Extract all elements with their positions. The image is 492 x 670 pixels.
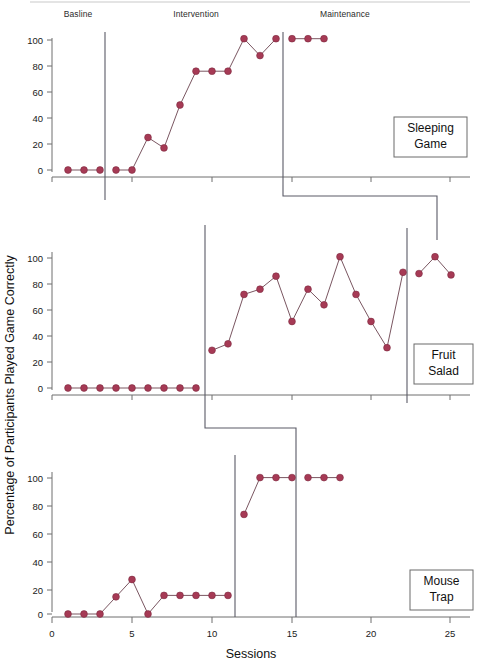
panel1-ytick-60: 60	[32, 87, 43, 98]
panel-label-line1: Sleeping	[407, 121, 454, 135]
data-point	[97, 385, 104, 392]
data-point	[193, 385, 200, 392]
data-point	[353, 291, 360, 298]
data-point	[209, 68, 216, 75]
data-point	[161, 145, 168, 152]
data-point	[432, 253, 439, 260]
panel2-ytick-60: 60	[32, 305, 43, 316]
panel-sleeping-game: 100 80 60 40 20 0	[27, 32, 470, 240]
data-point	[337, 253, 344, 260]
panel2-ytick-20: 20	[32, 357, 43, 368]
panel1-ytick-100: 100	[27, 35, 43, 46]
data-point	[129, 167, 136, 174]
panel3-xtick-5: 5	[129, 628, 134, 639]
data-point	[65, 167, 72, 174]
panel3-xtick-0: 0	[49, 628, 54, 639]
data-point	[289, 35, 296, 42]
data-point	[337, 474, 344, 481]
data-point	[368, 318, 375, 325]
panel3-xtick-25: 25	[445, 628, 456, 639]
data-point	[177, 102, 184, 109]
panel3-series	[65, 474, 344, 617]
data-point	[321, 301, 328, 308]
panel-label-line1: Fruit	[432, 348, 457, 362]
data-point	[145, 385, 152, 392]
panel3-ytick-80: 80	[32, 501, 43, 512]
data-point	[209, 347, 216, 354]
data-point	[241, 35, 248, 42]
data-point	[161, 385, 168, 392]
panel2-y-ticks: 100 80 60 40 20 0	[27, 253, 52, 394]
panel2-x-ticks	[52, 395, 450, 400]
panel-label-line2: Game	[414, 137, 447, 151]
panel1-ytick-40: 40	[32, 113, 43, 124]
data-point	[129, 576, 136, 583]
data-point	[384, 344, 391, 351]
data-point	[225, 592, 232, 599]
panel1-ytick-20: 20	[32, 139, 43, 150]
panel2-intervention-path	[212, 257, 403, 351]
data-point	[289, 474, 296, 481]
phase-label-maintenance: Maintenance	[320, 9, 370, 19]
panel2-ytick-100: 100	[27, 253, 43, 264]
data-point	[97, 611, 104, 618]
data-point	[257, 474, 264, 481]
panel2-series	[65, 253, 455, 391]
data-point	[177, 385, 184, 392]
phase-header-row: Basline Intervention Maintenance	[64, 9, 370, 19]
data-point	[289, 318, 296, 325]
data-point	[113, 167, 120, 174]
panel-mouse-trap: 100 80 60 40 20 0 0 5 10 15 20 25	[27, 455, 473, 639]
data-point	[305, 35, 312, 42]
chart-svg: Basline Intervention Maintenance Percent…	[0, 0, 492, 670]
data-point	[81, 167, 88, 174]
phase-label-baseline: Basline	[64, 9, 93, 19]
phase-label-intervention: Intervention	[173, 9, 219, 19]
data-point	[225, 340, 232, 347]
panel3-ytick-20: 20	[32, 585, 43, 596]
data-point	[321, 35, 328, 42]
data-point	[416, 270, 423, 277]
panel1-series	[65, 35, 328, 173]
data-point	[241, 291, 248, 298]
panel-label-sleeping-game: Sleeping Game	[394, 117, 467, 157]
data-point	[97, 167, 104, 174]
data-point	[241, 511, 248, 518]
panel2-ytick-40: 40	[32, 331, 43, 342]
data-point	[161, 592, 168, 599]
panel3-ytick-0: 0	[38, 609, 43, 620]
panel3-y-ticks: 100 80 60 40 20 0	[27, 473, 52, 620]
data-point	[209, 592, 216, 599]
panel3-xtick-15: 15	[287, 628, 298, 639]
x-axis-title: Sessions	[226, 647, 277, 661]
data-point	[225, 68, 232, 75]
data-point	[81, 385, 88, 392]
panel3-ytick-100: 100	[27, 473, 43, 484]
data-point	[129, 385, 136, 392]
panel-label-line1: Mouse	[423, 574, 459, 588]
data-point	[305, 286, 312, 293]
panel2-to-panel3-connector	[205, 418, 296, 470]
data-point	[113, 385, 120, 392]
panel2-ytick-0: 0	[38, 383, 43, 394]
data-point	[193, 68, 200, 75]
data-point	[65, 611, 72, 618]
data-point	[145, 134, 152, 141]
panel1-x-ticks	[52, 177, 450, 182]
data-point	[273, 35, 280, 42]
data-point	[65, 385, 72, 392]
data-point	[177, 592, 184, 599]
multiple-baseline-figure: Basline Intervention Maintenance Percent…	[0, 0, 492, 670]
data-point	[321, 474, 328, 481]
panel3-x-ticks: 0 5 10 15 20 25	[49, 617, 455, 639]
data-point	[273, 273, 280, 280]
data-point	[257, 52, 264, 59]
panel1-ytick-0: 0	[38, 165, 43, 176]
panel-label-mouse-trap: Mouse Trap	[410, 570, 473, 610]
data-point	[400, 269, 407, 276]
data-point	[145, 611, 152, 618]
panel1-y-ticks: 100 80 60 40 20 0	[27, 35, 52, 176]
panel1-ytick-80: 80	[32, 61, 43, 72]
panel1-intervention-path	[116, 39, 276, 170]
data-point	[113, 593, 120, 600]
